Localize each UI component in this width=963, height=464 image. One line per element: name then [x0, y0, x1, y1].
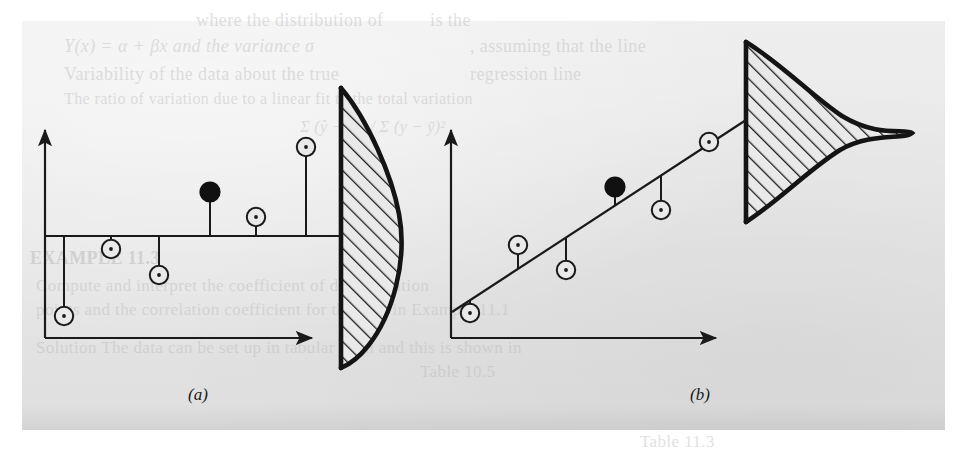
data-point [509, 236, 527, 254]
panel-a-residuals [64, 147, 306, 316]
data-point [102, 240, 120, 258]
data-point-highlighted [200, 182, 219, 201]
data-point [557, 261, 575, 279]
panel-b [451, 42, 912, 338]
panel-a-residual-distribution [341, 88, 402, 368]
data-point [700, 133, 718, 151]
panel-a-data-points [55, 138, 315, 325]
scanner-bed: where the distribution ofis theY(x) = α … [0, 0, 963, 464]
panel-b-caption: (b) [690, 385, 710, 405]
data-point [150, 266, 168, 284]
data-point [297, 138, 315, 156]
panel-a-caption: (a) [188, 385, 208, 405]
regression-figure [0, 0, 963, 464]
data-point [461, 304, 479, 322]
data-point [652, 201, 670, 219]
data-point-highlighted [605, 177, 624, 196]
data-point [247, 208, 265, 226]
panel-b-data-points [461, 133, 718, 322]
panel-a [45, 88, 402, 368]
panel-b-residual-distribution [746, 42, 912, 222]
data-point [55, 307, 73, 325]
